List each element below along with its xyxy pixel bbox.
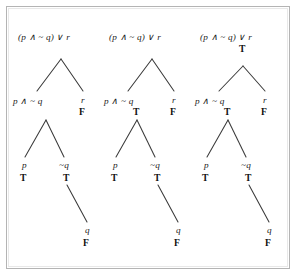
node-left-subformula: p ∧ ~ q — [195, 95, 224, 106]
node-leaf-p: p — [22, 160, 27, 170]
edge-root-left — [128, 59, 152, 91]
node-right-truth-value: F — [261, 106, 267, 117]
node-left-subformula: p ∧ ~ q — [104, 95, 133, 106]
node-root-formula: (p ∧ ~ q) ∨ r — [200, 31, 252, 42]
node-leaf-p: p — [113, 160, 118, 170]
edge-root-right — [243, 66, 265, 91]
node-leaf-p-truth-value: T — [202, 172, 208, 183]
node-leaf-p-truth-value: T — [20, 172, 26, 183]
node-leaf-q: q — [267, 225, 272, 235]
node-leaf-p-truth-value: T — [111, 172, 117, 183]
node-leaf-q-truth-value: F — [83, 237, 89, 248]
node-right-atom: r — [172, 95, 176, 105]
node-leaf-not-q: ~q — [241, 160, 251, 170]
edge-notq-q — [249, 185, 269, 222]
node-leaf-not-q: ~q — [59, 160, 69, 170]
node-leaf-p: p — [204, 160, 209, 170]
edge-left-p — [25, 120, 46, 157]
node-root-formula: (p ∧ ~ q) ∨ r — [18, 31, 70, 42]
node-leaf-q: q — [85, 225, 90, 235]
edge-left-p — [207, 120, 228, 157]
node-right-atom: r — [81, 95, 85, 105]
node-leaf-q-truth-value: F — [174, 237, 180, 248]
node-right-atom: r — [263, 95, 267, 105]
edge-root-left — [37, 59, 61, 91]
node-left-truth-value: T — [133, 106, 139, 117]
edge-notq-q — [67, 185, 87, 222]
node-leaf-not-q-truth-value: T — [154, 172, 160, 183]
edge-notq-q — [158, 185, 178, 222]
node-left-truth-value: T — [224, 106, 230, 117]
node-root-formula: (p ∧ ~ q) ∨ r — [109, 31, 161, 42]
edge-root-right — [152, 59, 174, 91]
edge-left-p — [116, 120, 137, 157]
edge-left-notq — [46, 120, 64, 157]
node-leaf-q: q — [176, 225, 181, 235]
node-left-subformula: p ∧ ~ q — [13, 95, 42, 106]
figure-frame: (p ∧ ~ q) ∨ r p ∧ ~ q r F p T ~q T q F (… — [6, 6, 290, 269]
node-leaf-not-q: ~q — [150, 160, 160, 170]
edge-left-notq — [137, 120, 155, 157]
node-leaf-not-q-truth-value: T — [245, 172, 251, 183]
edge-left-notq — [228, 120, 246, 157]
node-right-truth-value: F — [79, 106, 85, 117]
node-leaf-q-truth-value: F — [265, 237, 271, 248]
node-root-truth-value: T — [239, 43, 245, 54]
node-right-truth-value: F — [170, 106, 176, 117]
parse-tree-step-3: (p ∧ ~ q) ∨ r T p ∧ ~ q T r F p T ~q T q… — [187, 7, 283, 270]
tree-edges — [9, 7, 105, 270]
parse-tree-step-1: (p ∧ ~ q) ∨ r p ∧ ~ q r F p T ~q T q F — [9, 7, 105, 270]
parse-tree-step-2: (p ∧ ~ q) ∨ r p ∧ ~ q T r F p T ~q T q F — [99, 7, 195, 270]
edge-root-right — [61, 59, 83, 91]
node-leaf-not-q-truth-value: T — [63, 172, 69, 183]
edge-root-left — [219, 66, 243, 91]
